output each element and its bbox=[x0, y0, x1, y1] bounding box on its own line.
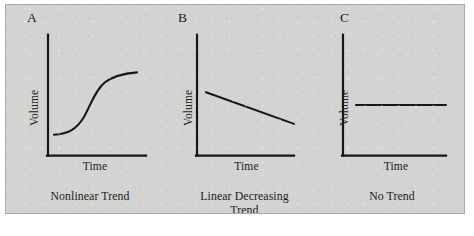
y-axis-label-a: Volume bbox=[28, 90, 40, 126]
series-line-nonlinear bbox=[54, 72, 137, 134]
x-axis-label-c: Time bbox=[344, 160, 448, 172]
x-axis-label-a: Time bbox=[46, 160, 144, 172]
series-line-linear-decreasing bbox=[206, 92, 294, 124]
x-axis-label-b: Time bbox=[198, 160, 295, 172]
panel-caption-b-line1: Linear Decreasing bbox=[200, 189, 289, 203]
figure-plate: A Volume Time Nonlinear Trend B Volume T… bbox=[5, 4, 465, 214]
panel-caption-c-line1: No Trend bbox=[369, 189, 415, 203]
panel-caption-a: Nonlinear Trend bbox=[12, 189, 168, 203]
y-axis-label-b: Volume bbox=[182, 90, 194, 126]
chart-panel-a: A Volume Time Nonlinear Trend bbox=[6, 5, 171, 213]
chart-panel-c: C Volume Time No Trend bbox=[318, 5, 465, 213]
panel-caption-b-line2: Trend bbox=[171, 203, 318, 214]
panel-caption-b: Linear Decreasing Trend bbox=[171, 189, 318, 214]
y-axis-label-c: Volume bbox=[338, 90, 350, 126]
panel-caption-c: No Trend bbox=[318, 189, 465, 203]
panel-caption-a-line1: Nonlinear Trend bbox=[50, 189, 129, 203]
chart-panel-b: B Volume Time Linear Decreasing Trend bbox=[171, 5, 318, 213]
